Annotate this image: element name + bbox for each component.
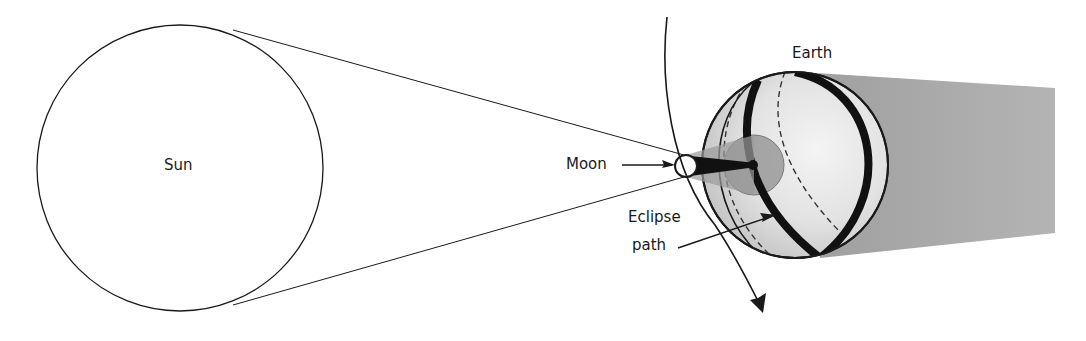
moon-arrowhead-icon xyxy=(662,160,675,168)
earth-label: Earth xyxy=(792,46,832,61)
moon-label-arrow xyxy=(622,160,675,168)
moon-label: Moon xyxy=(566,157,607,172)
eclipse-path-label-line1: Eclipse xyxy=(628,210,681,225)
umbra-spot xyxy=(748,160,758,170)
eclipse-diagram xyxy=(0,0,1086,341)
orbit-arrowhead-icon xyxy=(750,293,766,313)
sun-label: Sun xyxy=(164,158,193,173)
eclipse-path-label-line2: path xyxy=(632,238,666,253)
